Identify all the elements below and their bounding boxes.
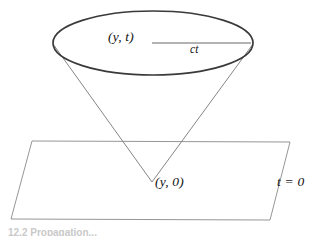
light-cone-figure: (y, t) ct (y, 0) t = 0 12.2 Propagation.… [0,0,324,236]
apex-point-label: (y, 0) [155,175,184,189]
radius-label: ct [190,44,199,56]
cone-right-edge [152,44,253,182]
cone-left-edge [53,44,152,182]
future-point-label: (y, t) [108,30,134,44]
diagram-canvas [0,0,324,236]
plane-label: t = 0 [277,175,304,189]
caption-fragment: 12.2 Propagation... [8,228,188,236]
